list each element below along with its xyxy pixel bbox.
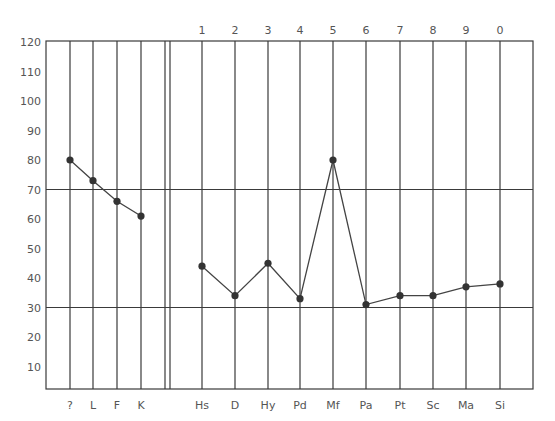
scale-number: 6 xyxy=(363,24,370,37)
data-point xyxy=(113,198,120,205)
scale-label: Si xyxy=(495,399,505,412)
scale-number: 9 xyxy=(463,24,470,37)
y-tick-label: 110 xyxy=(20,66,41,79)
data-point xyxy=(496,280,503,287)
scale-number: 2 xyxy=(232,24,239,37)
y-tick-label: 80 xyxy=(27,154,41,167)
scale-label: Ma xyxy=(458,399,474,412)
data-point xyxy=(231,292,238,299)
y-tick-label: 60 xyxy=(27,213,41,226)
y-tick-label: 100 xyxy=(20,95,41,108)
data-point xyxy=(89,177,96,184)
scale-label: Sc xyxy=(426,399,439,412)
scale-number: 5 xyxy=(330,24,337,37)
y-tick-label: 40 xyxy=(27,272,41,285)
chart-grid xyxy=(46,41,533,389)
y-tick-label: 90 xyxy=(27,125,41,138)
scale-number: 8 xyxy=(430,24,437,37)
data-point xyxy=(296,295,303,302)
scale-label: K xyxy=(137,399,145,412)
y-tick-label: 70 xyxy=(27,184,41,197)
mmpi-profile-chart: 102030405060708090100110120 1234567890 ?… xyxy=(0,0,555,421)
y-tick-label: 10 xyxy=(27,361,41,374)
y-tick-label: 30 xyxy=(27,302,41,315)
data-point xyxy=(137,212,144,219)
scale-label: D xyxy=(231,399,239,412)
scale-number: 1 xyxy=(199,24,206,37)
y-axis-tick-labels: 102030405060708090100110120 xyxy=(20,36,41,374)
data-point xyxy=(429,292,436,299)
profile-lines xyxy=(66,156,503,308)
scale-number: 4 xyxy=(297,24,304,37)
plot-frame xyxy=(46,41,533,389)
profile-line xyxy=(70,160,141,216)
scale-label: Pd xyxy=(293,399,307,412)
data-point xyxy=(198,263,205,270)
scale-number: 0 xyxy=(497,24,504,37)
scale-label: Pa xyxy=(360,399,373,412)
profile-line xyxy=(202,160,500,305)
y-tick-label: 50 xyxy=(27,243,41,256)
data-point xyxy=(462,283,469,290)
scale-name-labels: ?LFKHsDHyPdMfPaPtScMaSi xyxy=(67,399,505,412)
data-point xyxy=(264,260,271,267)
scale-label: Hs xyxy=(195,399,209,412)
scale-number: 3 xyxy=(265,24,272,37)
data-point xyxy=(329,156,336,163)
scale-label: F xyxy=(114,399,120,412)
data-point xyxy=(396,292,403,299)
scale-number-labels: 1234567890 xyxy=(199,24,504,37)
data-point xyxy=(66,156,73,163)
y-tick-label: 20 xyxy=(27,331,41,344)
scale-label: L xyxy=(90,399,97,412)
y-tick-label: 120 xyxy=(20,36,41,49)
data-point xyxy=(362,301,369,308)
scale-label: Mf xyxy=(326,399,340,412)
scale-number: 7 xyxy=(397,24,404,37)
scale-label: Hy xyxy=(261,399,276,412)
scale-label: Pt xyxy=(395,399,407,412)
scale-label: ? xyxy=(67,399,73,412)
